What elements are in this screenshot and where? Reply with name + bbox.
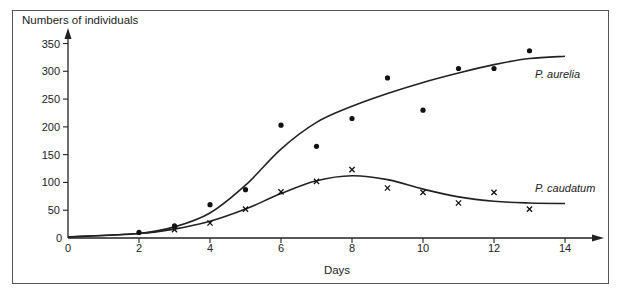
x-axis-title: Days [324,264,350,276]
x-tick-label: 8 [349,242,355,254]
x-tick-label: 4 [207,242,213,254]
dot-marker-icon [456,66,461,71]
dot-marker-icon [207,202,212,207]
x-tick-label: 6 [278,242,284,254]
y-ticks: 050100150200250300350 [42,38,68,244]
x-marker-icon [491,190,496,195]
y-tick-label: 150 [42,149,60,161]
data-points [136,48,532,235]
x-tick-label: 10 [417,242,429,254]
x-marker-icon [527,207,532,212]
y-tick-label: 100 [42,176,60,188]
y-tick-label: 250 [42,93,60,105]
series-label-p-aurelia: P. aurelia [535,68,580,80]
y-tick-label: 350 [42,38,60,50]
dot-marker-icon [349,116,354,121]
curve-p-caudatum [68,176,565,237]
y-tick-label: 200 [42,121,60,133]
dot-marker-icon [527,48,532,53]
dot-marker-icon [491,66,496,71]
x-tick-label: 0 [65,242,71,254]
x-marker-icon [420,190,425,195]
dot-marker-icon [278,123,283,128]
y-tick-label: 300 [42,65,60,77]
y-tick-label: 50 [48,204,60,216]
dot-marker-icon [314,144,319,149]
y-tick-label: 0 [56,232,62,244]
x-tick-label: 2 [136,242,142,254]
population-chart: 050100150200250300350 02468101214 Number… [0,0,624,298]
x-ticks: 02468101214 [65,238,571,254]
x-tick-label: 14 [559,242,571,254]
dot-marker-icon [136,230,141,235]
x-axis-arrow-icon [592,235,604,242]
dot-marker-icon [243,187,248,192]
x-marker-icon [456,200,461,205]
dot-marker-icon [385,75,390,80]
y-axis-title: Numbers of individuals [22,14,139,26]
series-label-p-caudatum: P. caudatum [535,182,595,194]
x-marker-icon [349,167,354,172]
dot-marker-icon [420,108,425,113]
y-axis-arrow-icon [65,28,72,39]
x-tick-label: 12 [488,242,500,254]
x-marker-icon [385,185,390,190]
